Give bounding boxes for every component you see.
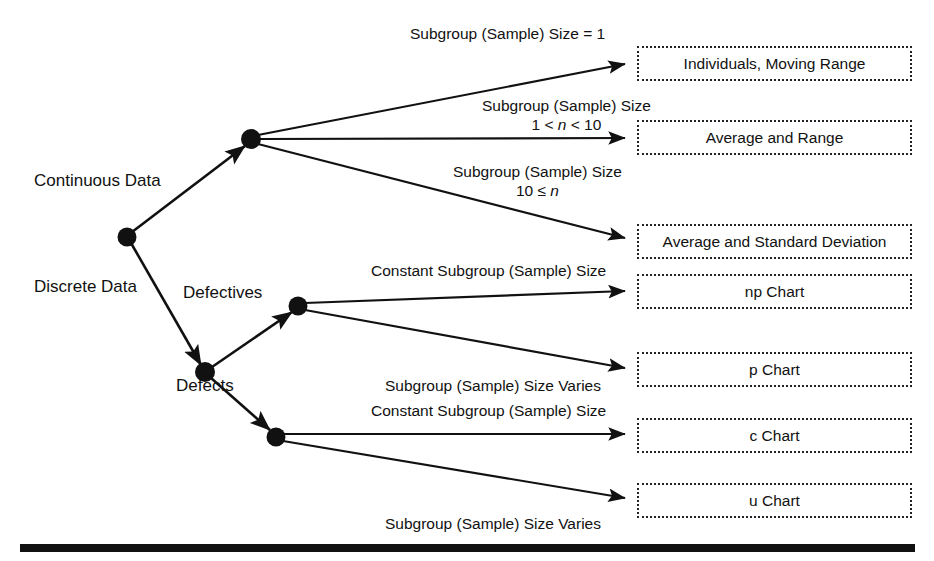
outcome-box-np-chart[interactable]: np Chart (637, 274, 912, 309)
outcome-label: Average and Standard Deviation (663, 233, 887, 251)
edge-defectives-to-p-chart (305, 310, 625, 368)
edge-label-line2-post: < 10 (566, 116, 601, 133)
branch-label-discrete-data: Discrete Data (34, 277, 137, 296)
outcome-box-u-chart[interactable]: u Chart (637, 483, 912, 518)
edge-label-subgroup-size-varies-u: Subgroup (Sample) Size Varies (385, 514, 601, 533)
node-continuous-hub[interactable] (241, 129, 261, 149)
edge-label-line2-pre: 1 < (532, 116, 558, 133)
edge-label-line2-pre: 10 ≤ (516, 182, 550, 199)
edge-label-subgroup-size-varies-p: Subgroup (Sample) Size Varies (385, 376, 601, 395)
edge-label-subgroup-size-1-to-10: Subgroup (Sample) Size 1 < n < 10 (482, 96, 651, 134)
outcome-box-p-chart[interactable]: p Chart (637, 352, 912, 387)
edge-label-constant-subgroup-size-np: Constant Subgroup (Sample) Size (371, 261, 606, 280)
bottom-divider-rule (20, 544, 915, 552)
edge-label-constant-subgroup-size-c: Constant Subgroup (Sample) Size (371, 401, 606, 420)
outcome-label: p Chart (749, 361, 800, 379)
node-root[interactable] (118, 228, 137, 247)
outcome-box-individuals-moving-range[interactable]: Individuals, Moving Range (637, 46, 912, 81)
node-defects-hub[interactable] (267, 428, 286, 447)
decision-tree-diagram: Continuous Data Discrete Data Defectives… (0, 0, 934, 561)
outcome-label: u Chart (749, 492, 800, 510)
edge-root-to-discrete (131, 243, 201, 365)
branch-label-defectives: Defectives (183, 283, 262, 302)
edge-defects-to-u-chart (283, 441, 625, 498)
edge-label-line1: Subgroup (Sample) Size Varies (385, 514, 601, 533)
edge-label-subgroup-size-equals-1: Subgroup (Sample) Size = 1 (410, 24, 605, 43)
outcome-label: Average and Range (706, 129, 844, 147)
edge-label-subgroup-size-10-or-more: Subgroup (Sample) Size 10 ≤ n (453, 162, 622, 200)
edge-label-line2: 1 < n < 10 (482, 115, 651, 134)
edge-label-line1: Constant Subgroup (Sample) Size (371, 261, 606, 280)
edge-label-line1: Subgroup (Sample) Size (482, 96, 651, 115)
edge-label-line1: Subgroup (Sample) Size Varies (385, 376, 601, 395)
outcome-label: c Chart (750, 427, 800, 445)
edge-label-line2: 10 ≤ n (453, 181, 622, 200)
outcome-box-average-and-standard-deviation[interactable]: Average and Standard Deviation (637, 224, 912, 259)
branch-label-defects: Defects (176, 376, 234, 395)
branch-label-continuous-data: Continuous Data (34, 171, 161, 190)
outcome-box-average-and-range[interactable]: Average and Range (637, 120, 912, 155)
edge-defectives-to-np-chart (305, 291, 625, 303)
outcome-label: Individuals, Moving Range (684, 55, 866, 73)
outcome-box-c-chart[interactable]: c Chart (637, 418, 912, 453)
node-defectives-hub[interactable] (289, 297, 308, 316)
outcome-label: np Chart (745, 283, 804, 301)
edge-label-line1: Constant Subgroup (Sample) Size (371, 401, 606, 420)
edge-label-line1: Subgroup (Sample) Size = 1 (410, 24, 605, 43)
edge-discrete-to-defectives (212, 312, 292, 367)
edge-label-line1: Subgroup (Sample) Size (453, 162, 622, 181)
edge-label-line2-variable: n (550, 182, 559, 199)
edge-continuous-to-average-range (259, 138, 625, 139)
